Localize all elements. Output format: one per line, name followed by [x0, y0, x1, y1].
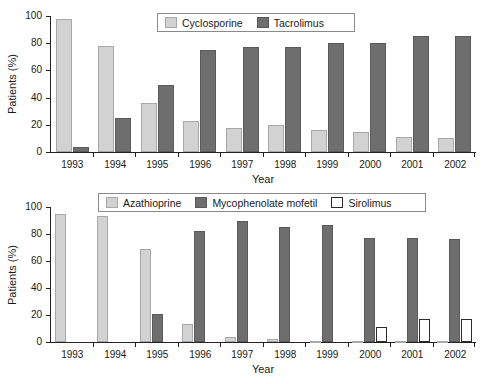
bar-cyclosporine-2001: [396, 137, 412, 152]
bar-tacrolimus-1994: [115, 118, 131, 152]
y-axis-tick-label: 60: [16, 65, 42, 75]
x-axis-tick: [390, 343, 391, 347]
legend-item-sirolimus[interactable]: Sirolimus: [331, 197, 391, 209]
y-axis-tick-label: 20: [16, 310, 42, 320]
x-axis-tick: [263, 343, 264, 347]
x-axis-tick-label: 1993: [48, 349, 97, 360]
x-axis-title: Year: [50, 363, 476, 375]
legend-item-cyclosporine[interactable]: Cyclosporine: [165, 17, 243, 29]
y-axis-tick: [46, 234, 50, 235]
y-axis-tick: [46, 315, 50, 316]
bar-mycophenolate-mofetil-2002: [449, 239, 460, 342]
x-axis-tick: [390, 153, 391, 157]
y-axis-tick: [46, 125, 50, 126]
bar-tacrolimus-1997: [243, 47, 259, 152]
y-axis-tick: [46, 98, 50, 99]
bar-mycophenolate-mofetil-1995: [152, 314, 163, 342]
legend-label: Azathioprine: [123, 197, 181, 209]
bar-azathioprine-1993: [55, 214, 66, 342]
x-axis-tick-label: 1997: [218, 349, 267, 360]
x-axis-tick-label: 2002: [431, 349, 480, 360]
bar-mycophenolate-mofetil-1999: [322, 225, 333, 343]
bar-cyclosporine-1995: [141, 103, 157, 152]
y-axis-tick: [46, 70, 50, 71]
bar-cyclosporine-1993: [56, 19, 72, 152]
legend-swatch-icon: [257, 17, 269, 28]
y-axis-tick-label: 40: [16, 93, 42, 103]
y-axis-tick: [46, 152, 50, 153]
x-axis-tick: [348, 343, 349, 347]
y-axis-title: Patients (%): [6, 245, 18, 305]
bar-cyclosporine-1998: [268, 125, 284, 152]
bar-tacrolimus-2001: [413, 36, 429, 152]
y-axis-tick: [46, 207, 50, 208]
bar-azathioprine-1994: [97, 216, 108, 342]
y-axis-tick: [46, 288, 50, 289]
legend-item-tacrolimus[interactable]: Tacrolimus: [257, 17, 324, 29]
chart-azathioprine-mmf-sirolimus: 020406080100Patients (%)1993199419951996…: [0, 191, 484, 384]
legend-swatch-icon: [165, 17, 177, 28]
bar-cyclosporine-1996: [183, 121, 199, 152]
bar-tacrolimus-1995: [158, 85, 174, 152]
legend-swatch-icon: [331, 197, 343, 208]
chart-legend: CyclosporineTacrolimus: [157, 13, 355, 32]
x-axis-title: Year: [50, 173, 476, 185]
x-axis-tick: [220, 343, 221, 347]
legend-swatch-icon: [106, 197, 118, 208]
x-axis-tick: [474, 343, 475, 347]
y-axis-tick-label: 80: [16, 38, 42, 48]
chart-cyclosporine-tacrolimus: 020406080100Patients (%)1993199419951996…: [0, 0, 484, 192]
x-axis-tick-label: 1999: [303, 159, 352, 170]
x-axis-tick: [433, 343, 434, 347]
y-axis-line: [50, 207, 51, 343]
bar-azathioprine-2000: [352, 341, 363, 343]
x-axis-tick-label: 1995: [133, 159, 182, 170]
bar-tacrolimus-2000: [370, 43, 386, 152]
bar-cyclosporine-1999: [311, 130, 327, 152]
bar-mycophenolate-mofetil-1996: [194, 231, 205, 342]
bar-azathioprine-2002: [437, 341, 448, 343]
chart-legend: AzathioprineMycophenolate mofetilSirolim…: [98, 193, 426, 212]
legend-label: Sirolimus: [348, 197, 391, 209]
bar-mycophenolate-mofetil-2000: [364, 238, 375, 342]
bar-sirolimus-2000: [376, 327, 387, 342]
bar-cyclosporine-1994: [98, 46, 114, 152]
x-axis-tick-label: 2001: [388, 159, 437, 170]
y-axis-tick: [46, 43, 50, 44]
y-axis-tick-label: 40: [16, 283, 42, 293]
y-axis-tick: [46, 342, 50, 343]
x-axis-tick: [305, 343, 306, 347]
bar-mycophenolate-mofetil-2001: [407, 238, 418, 342]
bar-cyclosporine-2000: [353, 132, 369, 152]
x-axis-tick-label: 1993: [48, 159, 97, 170]
x-axis-tick: [93, 343, 94, 347]
legend-label: Tacrolimus: [274, 17, 324, 29]
legend-label: Cyclosporine: [182, 17, 243, 29]
x-axis-tick-label: 1995: [133, 349, 182, 360]
y-axis-tick: [46, 261, 50, 262]
y-axis-tick-label: 60: [16, 256, 42, 266]
y-axis-title: Patients (%): [6, 54, 18, 114]
x-axis-tick-label: 1999: [303, 349, 352, 360]
legend-item-mycophenolate-mofetil[interactable]: Mycophenolate mofetil: [195, 197, 317, 209]
legend-label: Mycophenolate mofetil: [212, 197, 317, 209]
y-axis-tick: [46, 16, 50, 17]
y-axis-line: [50, 16, 51, 153]
bar-mycophenolate-mofetil-1998: [279, 227, 290, 342]
bar-azathioprine-1999: [310, 341, 321, 343]
y-axis-tick-label: 0: [16, 147, 42, 157]
y-axis-tick-label: 100: [16, 11, 42, 21]
x-axis-tick: [135, 343, 136, 347]
x-axis-tick: [433, 153, 434, 157]
bar-tacrolimus-2002: [455, 36, 471, 152]
legend-item-azathioprine[interactable]: Azathioprine: [106, 197, 181, 209]
bar-tacrolimus-1999: [328, 43, 344, 152]
x-axis-tick: [263, 153, 264, 157]
bar-sirolimus-2001: [419, 319, 430, 342]
bar-azathioprine-1997: [225, 337, 236, 342]
bar-azathioprine-1998: [267, 339, 278, 342]
x-axis-tick: [220, 153, 221, 157]
y-axis-tick-label: 0: [16, 337, 42, 347]
legend-swatch-icon: [195, 197, 207, 208]
x-axis-tick: [93, 153, 94, 157]
